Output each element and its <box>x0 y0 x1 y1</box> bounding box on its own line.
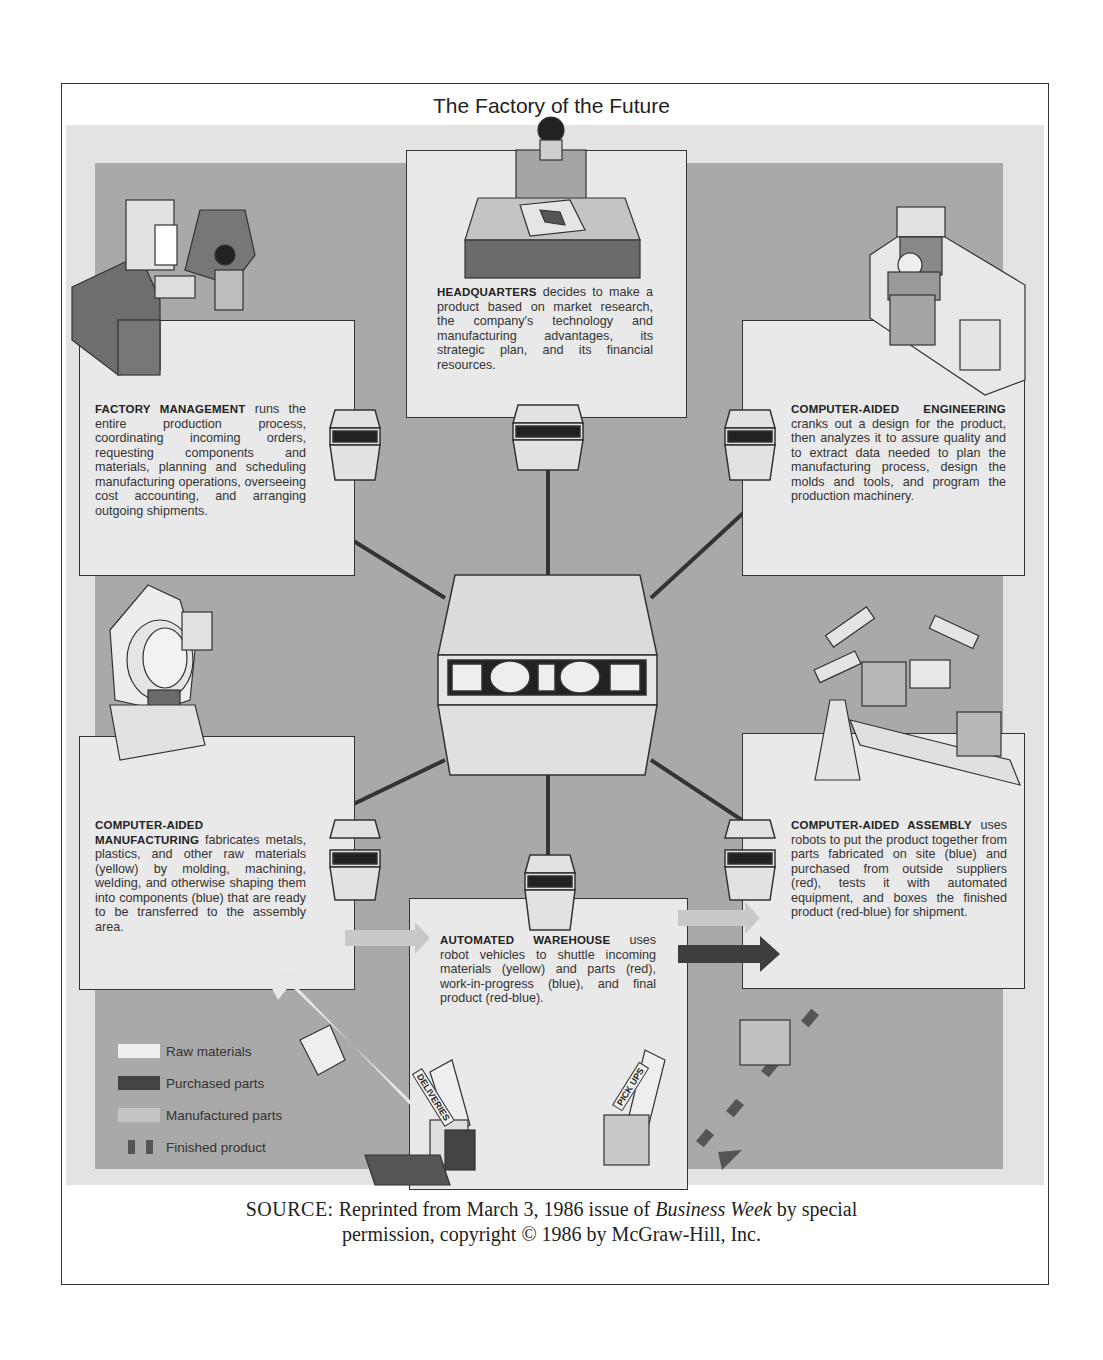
arrow-manufactured-out <box>678 902 760 934</box>
legend-item-finished-product: Finished product <box>118 1131 282 1163</box>
source-text-b: by special <box>772 1198 858 1220</box>
finished-product-swatch <box>118 1140 160 1154</box>
source-prefix: SOURCE: <box>246 1198 334 1220</box>
raw-materials-swatch <box>118 1044 160 1058</box>
legend-label: Purchased parts <box>166 1076 264 1091</box>
source-publication: Business Week <box>655 1198 771 1220</box>
arrow-purchased-out <box>678 936 780 972</box>
legend-label: Finished product <box>166 1140 266 1155</box>
manufactured-parts-swatch <box>118 1108 160 1122</box>
legend: Raw materials Purchased parts Manufactur… <box>118 1035 282 1163</box>
legend-label: Raw materials <box>166 1044 252 1059</box>
arrow-manufactured-in <box>345 922 430 954</box>
purchased-parts-swatch <box>118 1076 160 1090</box>
central-computer-top <box>438 575 657 655</box>
source-text-a: Reprinted from March 3, 1986 issue of <box>339 1198 656 1220</box>
source-note: SOURCE: Reprinted from March 3, 1986 iss… <box>0 1197 1103 1247</box>
legend-item-raw-materials: Raw materials <box>118 1035 282 1067</box>
legend-item-manufactured-parts: Manufactured parts <box>118 1099 282 1131</box>
arrow-raw-in <box>265 972 415 1110</box>
source-line-2: permission, copyright © 1986 by McGraw-H… <box>0 1222 1103 1247</box>
source-line-1: SOURCE: Reprinted from March 3, 1986 iss… <box>0 1197 1103 1222</box>
legend-label: Manufactured parts <box>166 1108 282 1123</box>
legend-item-purchased-parts: Purchased parts <box>118 1067 282 1099</box>
